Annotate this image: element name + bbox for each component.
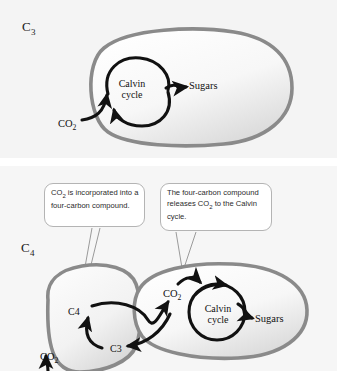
c4-sugars-label: Sugars [255, 313, 284, 324]
c3-co2-label: CO2 [58, 118, 76, 132]
callout-co2-released: The four-carbon compound releases CO2 to… [160, 183, 272, 231]
panel-label-c4: C4 [21, 240, 35, 258]
c4-three-carbon-label: C3 [110, 343, 122, 354]
c4-four-carbon-label: C4 [68, 306, 80, 317]
figure-canvas: C3 C4 CO2 Calvin cycle Sugars CO2 is inc… [0, 0, 337, 371]
c4-mesophyll-cell [48, 265, 141, 371]
c4-co2-released-label: CO2 [163, 288, 181, 302]
callout-co2-incorporated: CO2 is incorporated into a four-carbon c… [44, 183, 145, 227]
c3-sugars-label: Sugars [189, 80, 218, 91]
callout-right-leader-b [184, 232, 196, 268]
callout-right-leader-a [176, 232, 182, 268]
c4-calvin-cycle-label: Calvin cycle [195, 303, 241, 325]
panel-label-c3: C3 [22, 19, 36, 37]
c4-co2-input-label: CO2 [40, 351, 58, 365]
c3-calvin-cycle-label: Calvin cycle [109, 78, 155, 100]
